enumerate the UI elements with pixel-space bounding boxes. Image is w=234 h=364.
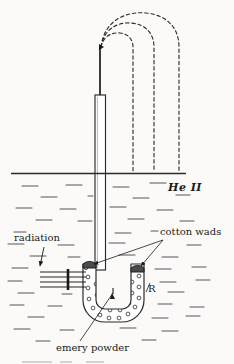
label-chamber-r: R — [148, 284, 156, 294]
wide-tube — [95, 95, 106, 270]
cotton-wad-right — [131, 265, 144, 272]
fountain-arc-middle — [101, 23, 154, 172]
radiation-beam — [40, 269, 86, 290]
fountain-arc-outer — [101, 13, 179, 172]
label-radiation: radiation — [14, 233, 60, 243]
cotton-wad-left — [83, 261, 96, 268]
label-he-ii: He II — [168, 182, 202, 193]
label-emery-powder: emery powder — [56, 343, 129, 353]
label-cotton-wads: cotton wads — [160, 227, 221, 237]
fountain-arcs — [101, 13, 179, 172]
